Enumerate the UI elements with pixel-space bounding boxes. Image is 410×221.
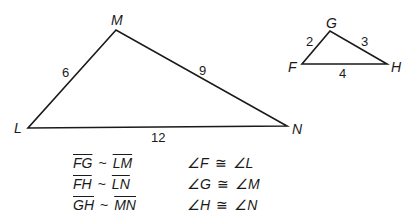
angle-left: ∠F	[187, 155, 209, 171]
vertex-label-h: H	[391, 60, 401, 74]
similar-symbol: ~	[92, 176, 112, 192]
congruent-symbol: ≅	[211, 176, 235, 192]
vertex-label-m: M	[111, 13, 123, 27]
side-length-fh: 4	[339, 67, 346, 80]
side-relation: FH~LN	[73, 177, 130, 191]
angle-left: ∠H	[187, 197, 210, 213]
segment-left: FH	[73, 176, 92, 192]
congruent-symbol: ≅	[210, 197, 234, 213]
side-length-gh: 3	[361, 35, 368, 48]
side-relation: GH~MN	[73, 198, 136, 212]
similar-symbol: ~	[94, 197, 114, 213]
congruent-symbol: ≅	[209, 155, 233, 171]
angle-right: ∠M	[235, 176, 260, 192]
triangle-fgh	[302, 31, 387, 64]
angle-relation: ∠G≅∠M	[187, 177, 260, 191]
segment-left: GH	[73, 197, 94, 213]
side-length-mn: 9	[199, 64, 206, 77]
segment-right: LN	[112, 176, 130, 192]
angle-relation: ∠H≅∠N	[187, 198, 257, 212]
vertex-label-n: N	[292, 122, 302, 136]
segment-right: MN	[114, 197, 136, 213]
side-length-ln: 12	[151, 131, 165, 144]
vertex-label-g: G	[326, 16, 337, 30]
vertex-label-l: L	[14, 121, 22, 135]
angle-left: ∠G	[187, 176, 211, 192]
side-relation: FG~LM	[73, 156, 132, 170]
side-length-lm: 6	[62, 66, 69, 79]
segment-right: LM	[113, 155, 132, 171]
vertex-label-f: F	[288, 60, 297, 74]
angle-right: ∠N	[234, 197, 257, 213]
angle-right: ∠L	[233, 155, 254, 171]
angle-relation: ∠F≅∠L	[187, 156, 253, 170]
similar-symbol: ~	[92, 155, 112, 171]
side-length-fg: 2	[306, 35, 313, 48]
segment-left: FG	[73, 155, 92, 171]
